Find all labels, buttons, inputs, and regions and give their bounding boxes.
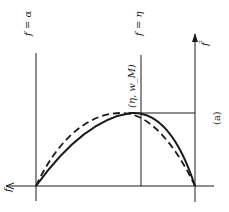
label-axis-vertical: f̂ xyxy=(199,42,210,46)
label-f-eta: f = η xyxy=(133,12,144,36)
label-peak-point: (η, w_M) xyxy=(126,64,137,108)
figure-caption: (a) xyxy=(211,111,222,125)
label-axis-horizontal: f xyxy=(2,188,13,192)
diagram-figure xyxy=(0,0,229,212)
label-f-alpha: f = α xyxy=(22,11,33,36)
solid-curve xyxy=(36,113,195,186)
arrow-up-icon xyxy=(192,33,198,42)
dashed-curve xyxy=(36,113,195,186)
